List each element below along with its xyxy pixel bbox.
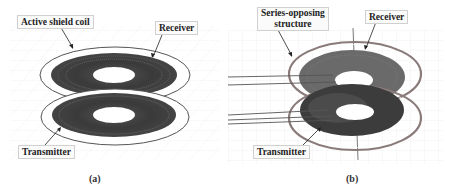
receiver-coil-center <box>93 67 135 83</box>
label-receiver: Receiver <box>155 21 198 35</box>
label-series-opposing-line2: structure <box>261 19 325 30</box>
label-active-shield-coil: Active shield coil <box>17 15 94 29</box>
label-transmitter: Transmitter <box>18 145 75 159</box>
label-series-opposing-structure: Series-opposing structure <box>257 7 329 31</box>
label-series-opposing-line1: Series-opposing <box>261 8 325 19</box>
transmitter-coil-center <box>336 104 374 120</box>
caption-b: (b) <box>346 173 358 184</box>
label-receiver: Receiver <box>365 10 408 24</box>
caption-a: (a) <box>89 173 101 184</box>
panel-a: Active shield coil Receiver Transmitter … <box>0 0 228 191</box>
panel-b: Series-opposing structure Receiver Trans… <box>228 0 456 191</box>
label-transmitter: Transmitter <box>253 145 310 159</box>
transmitter-coil-center <box>93 107 135 123</box>
